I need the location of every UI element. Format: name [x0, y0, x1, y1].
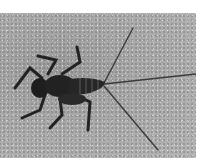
photo	[0, 13, 196, 158]
insect-nymph	[0, 13, 196, 158]
